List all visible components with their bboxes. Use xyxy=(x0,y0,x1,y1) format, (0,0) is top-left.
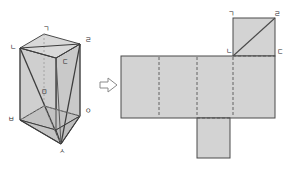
transform-arrow xyxy=(100,78,117,92)
net-face-band xyxy=(121,56,275,118)
prism-solid xyxy=(20,34,80,144)
net-vertex-label: ㄹ xyxy=(274,11,280,18)
net-face-bottom-flap xyxy=(197,118,230,158)
prism-vertex-label: ㅅ xyxy=(59,148,65,155)
net-vertex-label: ㄷ xyxy=(277,49,283,56)
prism-vertex-label: ㄱ xyxy=(43,26,49,33)
prism-vertex-label: ㅇ xyxy=(85,108,91,115)
prism-vertex-label: ㄷ xyxy=(62,59,68,66)
net-vertex-label: ㄱ xyxy=(228,11,234,18)
prism-vertex-label: ㄹ xyxy=(85,37,91,44)
prism-vertex-label: ㅂ xyxy=(8,116,14,123)
prism-vertex-label: ㅁ xyxy=(41,89,47,96)
net-vertex-label: ㄴ xyxy=(226,48,232,55)
net-diagram xyxy=(121,18,275,158)
arrow-right-icon xyxy=(100,78,117,92)
prism-vertex-label: ㄴ xyxy=(10,44,16,51)
